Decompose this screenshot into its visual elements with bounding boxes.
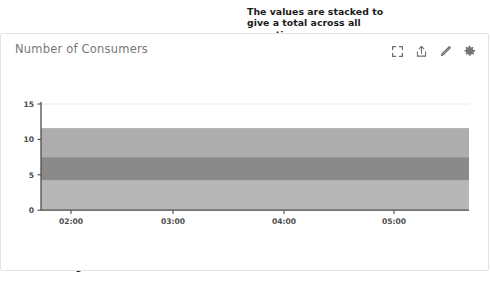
ytick-label: 5 <box>29 171 34 180</box>
band-purple <box>41 128 469 157</box>
ytick-label: 10 <box>23 135 34 144</box>
chart-panel: Number of Consumers <box>0 33 489 271</box>
panel-header: Number of Consumers <box>1 34 488 66</box>
share-icon[interactable] <box>415 45 428 58</box>
edit-icon[interactable] <box>439 45 452 58</box>
panel-actions <box>391 45 476 58</box>
xtick-label: 04:00 <box>272 217 296 226</box>
ytick-label: 15 <box>23 100 34 109</box>
chart-plot-area: 15 10 5 0 02:00 03:00 04:00 05:00 <box>1 66 488 272</box>
band-blue <box>41 157 469 180</box>
expand-icon[interactable] <box>391 45 404 58</box>
y-tick-labels: 15 10 5 0 <box>23 100 34 215</box>
stacked-area-chart: 15 10 5 0 02:00 03:00 04:00 05:00 <box>1 66 490 272</box>
x-tick-labels: 02:00 03:00 04:00 05:00 <box>59 217 406 226</box>
page-title: Number of Consumers <box>15 42 148 56</box>
ytick-label: 0 <box>29 206 34 215</box>
gear-icon[interactable] <box>463 45 476 58</box>
stacked-bands <box>41 128 469 210</box>
xtick-label: 02:00 <box>59 217 83 226</box>
band-light-blue <box>41 181 469 211</box>
xtick-label: 05:00 <box>382 217 406 226</box>
xtick-label: 03:00 <box>161 217 185 226</box>
